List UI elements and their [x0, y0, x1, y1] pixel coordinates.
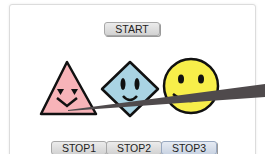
start-button[interactable]: START: [104, 22, 160, 36]
triangle-face-icon[interactable]: [41, 62, 96, 114]
stop1-button[interactable]: STOP1: [51, 141, 107, 154]
smiley-face-icon[interactable]: [164, 59, 218, 113]
stop2-button[interactable]: STOP2: [106, 141, 162, 154]
stop3-button[interactable]: STOP3: [161, 141, 217, 154]
